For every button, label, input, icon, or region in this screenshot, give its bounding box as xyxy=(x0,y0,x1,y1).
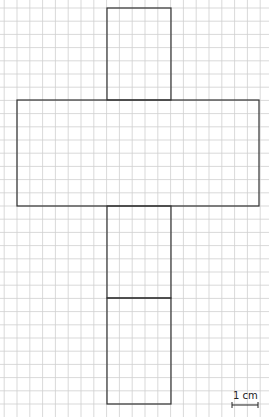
grid-lines xyxy=(0,0,269,417)
scale-bar-label: 1 cm xyxy=(233,391,258,401)
lower-face-1 xyxy=(107,206,171,298)
top-face xyxy=(107,8,171,100)
scale-bar xyxy=(232,402,258,408)
net-outline xyxy=(17,8,259,404)
cube-net-diagram xyxy=(0,0,269,417)
